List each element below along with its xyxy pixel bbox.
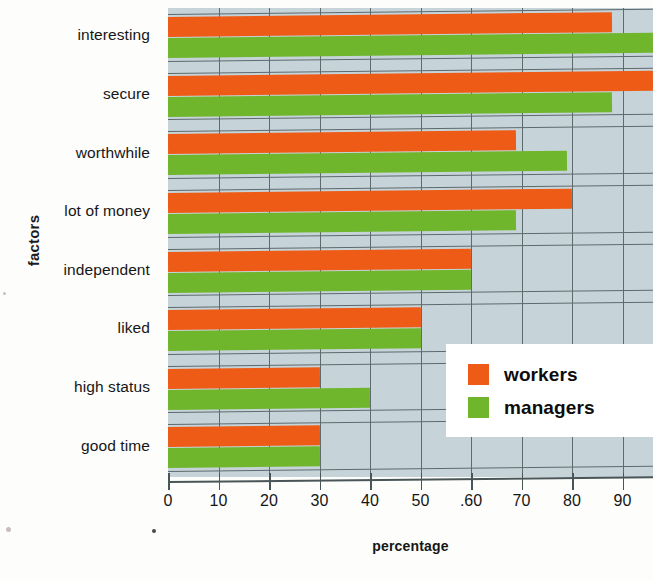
legend-label-managers: managers (504, 397, 595, 419)
bar-workers-high-status (168, 367, 320, 389)
category-label-worthwhile: worthwhile (76, 144, 150, 162)
x-axis-tick-label: 20 (249, 492, 289, 510)
category-label-lot-of-money: lot of money (64, 202, 150, 220)
x-axis-title: percentage (168, 538, 653, 554)
bar-managers-interesting (168, 33, 653, 58)
category-label-high-status: high status (74, 378, 150, 396)
category-label-good-time: good time (81, 437, 150, 455)
category-label-secure: secure (103, 85, 150, 103)
chart-legend: workers managers (446, 344, 653, 437)
bar-managers-independent (168, 269, 471, 292)
x-axis-tick-label: 80 (552, 492, 592, 510)
legend-swatch-workers-icon (468, 364, 489, 385)
x-axis-tick (320, 473, 322, 490)
bar-managers-high-status (168, 388, 370, 410)
x-axis-tick (623, 473, 625, 490)
x-axis-tick-label: 30 (300, 492, 340, 510)
category-label-liked: liked (118, 319, 150, 337)
x-axis-tick (421, 473, 423, 490)
x-axis-tick-label: 90 (603, 492, 643, 510)
bar-workers-liked (168, 307, 421, 330)
bar-workers-lot-of-money (168, 189, 572, 213)
x-axis-tick-label: 10 (199, 492, 239, 510)
bar-managers-secure (168, 92, 612, 117)
legend-swatch-managers-icon (468, 397, 489, 418)
legend-entry-managers: managers (468, 391, 653, 424)
x-axis-tick (219, 473, 221, 490)
x-axis-tick-label: 40 (350, 492, 390, 510)
scan-speck (3, 292, 6, 295)
x-axis-tick-label: 0 (148, 492, 188, 510)
bar-workers-worthwhile (168, 130, 517, 154)
x-axis-tick (168, 473, 170, 490)
bar-workers-good-time (168, 426, 320, 448)
x-axis-tick-label: 70 (502, 492, 542, 510)
x-axis-tick (370, 473, 372, 490)
bar-chart: factors interestingsecureworthwhilelot o… (0, 0, 653, 581)
bar-managers-worthwhile (168, 151, 567, 175)
x-axis-tick (471, 473, 473, 490)
x-axis-tick (572, 473, 574, 490)
legend-label-workers: workers (504, 364, 578, 386)
x-axis-tick-label: .60 (451, 492, 491, 510)
bar-managers-lot-of-money (168, 210, 517, 234)
bar-workers-independent (168, 248, 471, 271)
bar-managers-good-time (168, 447, 320, 469)
category-label-list: interestingsecureworthwhilelot of moneyi… (0, 0, 162, 477)
legend-entry-workers: workers (468, 358, 653, 391)
x-axis-tick-label: 50 (401, 492, 441, 510)
category-label-independent: independent (64, 261, 150, 279)
bar-managers-liked (168, 328, 421, 351)
scan-speck (6, 527, 11, 532)
x-axis-line (168, 476, 653, 482)
x-axis-tick (269, 473, 271, 490)
scan-speck (152, 529, 156, 533)
category-label-interesting: interesting (77, 26, 150, 44)
x-axis-tick (522, 473, 524, 490)
